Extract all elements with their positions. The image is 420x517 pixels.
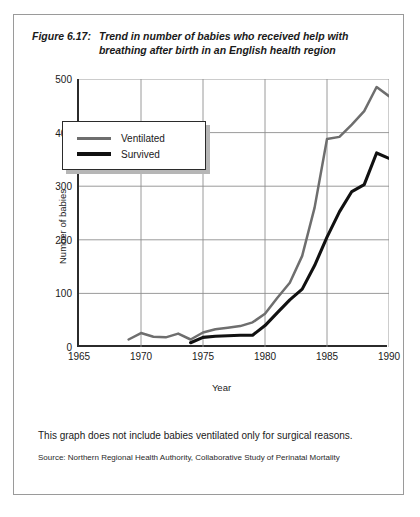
x-tick-label: 1990 bbox=[378, 351, 400, 362]
x-axis-title: Year bbox=[14, 382, 405, 393]
legend-swatch-survived-icon bbox=[77, 152, 111, 156]
x-tick-label: 1970 bbox=[130, 351, 152, 362]
plot-area: 0100200300400500 19651970197519801985199… bbox=[77, 79, 387, 347]
chart-legend: Ventilated Survived bbox=[62, 121, 206, 170]
legend-label-survived: Survived bbox=[121, 149, 160, 160]
x-tick-label: 1985 bbox=[316, 351, 338, 362]
gridlines bbox=[79, 79, 389, 347]
x-tick-label: 1980 bbox=[254, 351, 276, 362]
legend-label-ventilated: Ventilated bbox=[121, 133, 165, 144]
chart-svg bbox=[79, 79, 389, 347]
figure-caption: Figure 6.17: Trend in number of babies w… bbox=[32, 29, 387, 57]
figure-source: Source: Northern Regional Health Authori… bbox=[38, 452, 340, 464]
figure-title: Trend in number of babies who received h… bbox=[99, 29, 387, 57]
legend-swatch-ventilated-icon bbox=[77, 137, 111, 140]
x-axis-title-text: Year bbox=[212, 382, 231, 393]
figure-label: Figure 6.17: bbox=[32, 29, 91, 43]
y-tick-label: 100 bbox=[55, 288, 72, 299]
y-tick-label: 200 bbox=[55, 234, 72, 245]
legend-item-ventilated: Ventilated bbox=[77, 130, 205, 146]
y-tick-label: 300 bbox=[55, 181, 72, 192]
y-tick-label: 500 bbox=[55, 74, 72, 85]
legend-item-survived: Survived bbox=[77, 146, 205, 162]
figure-frame: Figure 6.17: Trend in number of babies w… bbox=[13, 14, 404, 495]
x-tick-label: 1965 bbox=[68, 351, 90, 362]
chart-block: Number of babies 0100200300400500 196519… bbox=[14, 71, 405, 401]
x-tick-label: 1975 bbox=[192, 351, 214, 362]
figure-note: This graph does not include babies venti… bbox=[38, 429, 353, 443]
series-line-survived bbox=[191, 153, 389, 343]
